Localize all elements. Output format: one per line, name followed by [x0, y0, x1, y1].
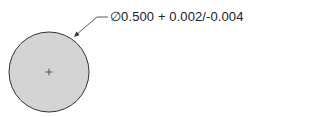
diameter-symbol: ∅	[110, 9, 121, 24]
tolerance-value: + 0.002/-0.004	[158, 9, 244, 24]
nominal-value: 0.500	[121, 9, 154, 24]
leader-line	[76, 17, 108, 35]
diameter-callout: ∅0.500 + 0.002/-0.004	[110, 9, 243, 24]
